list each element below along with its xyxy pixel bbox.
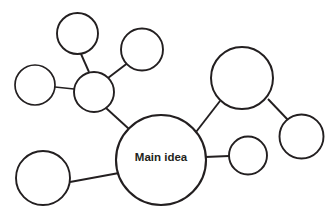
connector-line bbox=[55, 87, 74, 89]
connector-line bbox=[196, 101, 220, 132]
node-circle-right-small[interactable] bbox=[229, 137, 267, 175]
connector-line bbox=[70, 173, 119, 182]
node-circle-top-left[interactable] bbox=[57, 13, 98, 54]
center-node-group: Main idea bbox=[116, 115, 206, 205]
diagram-canvas: Main idea bbox=[0, 0, 336, 221]
node-label-main-idea: Main idea bbox=[135, 151, 188, 163]
connector-line bbox=[81, 54, 89, 72]
node-circle-hub-left[interactable] bbox=[74, 72, 114, 112]
connector-line bbox=[106, 108, 129, 129]
node-circle-top-middle[interactable] bbox=[121, 29, 163, 71]
bubble-map-diagram: Main idea bbox=[0, 0, 336, 221]
connector-line bbox=[108, 62, 129, 78]
connector-line bbox=[268, 99, 288, 120]
node-circle-right-large[interactable] bbox=[211, 47, 273, 109]
connector-line bbox=[205, 156, 229, 157]
node-circle-bottom-left[interactable] bbox=[16, 151, 70, 205]
node-circle-far-left[interactable] bbox=[15, 65, 55, 105]
node-circle-far-right[interactable] bbox=[280, 115, 324, 159]
